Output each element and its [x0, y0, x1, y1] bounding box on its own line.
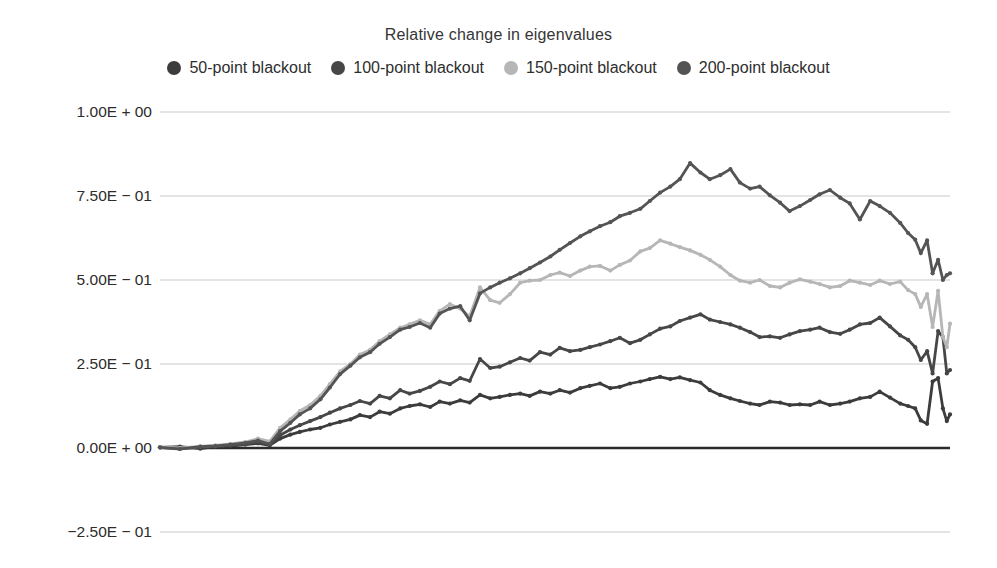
data-point-marker: [906, 338, 910, 342]
data-point-marker: [438, 400, 442, 404]
data-point-marker: [348, 403, 352, 407]
data-point-marker: [768, 400, 772, 404]
data-point-marker: [919, 251, 923, 255]
data-point-marker: [919, 358, 923, 362]
data-point-marker: [478, 285, 482, 289]
data-point-marker: [358, 413, 362, 417]
data-point-marker: [878, 390, 882, 394]
data-point-marker: [538, 350, 542, 354]
data-point-marker: [658, 375, 662, 379]
data-point-marker: [398, 406, 402, 410]
data-point-marker: [913, 292, 917, 296]
data-point-marker: [678, 375, 682, 379]
data-point-marker: [628, 341, 632, 345]
data-point-marker: [328, 385, 332, 389]
data-point-marker: [858, 322, 862, 326]
data-point-marker: [528, 359, 532, 363]
data-point-marker: [758, 278, 762, 282]
data-point-marker: [648, 199, 652, 203]
data-point-marker: [941, 335, 945, 339]
data-point-marker: [358, 355, 362, 359]
data-point-marker: [788, 209, 792, 213]
data-point-marker: [468, 379, 472, 383]
data-point-marker: [528, 266, 532, 270]
data-point-marker: [298, 430, 302, 434]
data-point-marker: [838, 196, 842, 200]
data-point-marker: [778, 201, 782, 205]
data-point-marker: [388, 335, 392, 339]
data-point-marker: [448, 307, 452, 311]
data-point-marker: [878, 316, 882, 320]
data-point-marker: [568, 349, 572, 353]
data-point-marker: [488, 285, 492, 289]
data-point-marker: [948, 322, 952, 326]
data-point-marker: [919, 305, 923, 309]
data-point-marker: [558, 248, 562, 252]
data-point-marker: [408, 404, 412, 408]
data-point-marker: [368, 402, 372, 406]
data-point-marker: [358, 399, 362, 403]
data-point-marker: [906, 231, 910, 235]
data-point-marker: [628, 211, 632, 215]
data-point-marker: [798, 204, 802, 208]
data-point-marker: [748, 402, 752, 406]
data-point-marker: [418, 402, 422, 406]
data-point-marker: [628, 258, 632, 262]
data-point-marker: [948, 412, 952, 416]
data-point-marker: [898, 280, 902, 284]
data-point-marker: [925, 349, 929, 353]
data-point-marker: [498, 281, 502, 285]
data-point-marker: [888, 396, 892, 400]
data-point-marker: [808, 403, 812, 407]
data-point-marker: [638, 379, 642, 383]
data-point-marker: [468, 318, 472, 322]
data-point-marker: [318, 426, 322, 430]
data-point-marker: [338, 420, 342, 424]
data-point-marker: [608, 220, 612, 224]
data-point-marker: [388, 396, 392, 400]
data-point-marker: [558, 346, 562, 350]
data-point-marker: [906, 288, 910, 292]
data-point-marker: [658, 191, 662, 195]
data-point-marker: [698, 170, 702, 174]
data-point-marker: [578, 386, 582, 390]
data-point-marker: [378, 342, 382, 346]
data-point-marker: [888, 324, 892, 328]
data-point-marker: [488, 396, 492, 400]
data-point-marker: [318, 415, 322, 419]
data-point-marker: [388, 412, 392, 416]
data-point-marker: [288, 421, 292, 425]
data-point-marker: [558, 388, 562, 392]
data-point-marker: [538, 390, 542, 394]
data-point-marker: [788, 281, 792, 285]
data-point-marker: [668, 324, 672, 328]
data-point-marker: [468, 401, 472, 405]
data-point-marker: [925, 422, 929, 426]
data-point-marker: [728, 396, 732, 400]
data-point-marker: [328, 411, 332, 415]
data-point-marker: [898, 402, 902, 406]
data-point-marker: [945, 419, 949, 423]
series-line: [160, 240, 950, 448]
data-point-marker: [428, 405, 432, 409]
data-point-marker: [838, 402, 842, 406]
data-point-marker: [936, 258, 940, 262]
series-150-point-blackout: [158, 238, 952, 450]
data-point-marker: [738, 399, 742, 403]
data-point-marker: [808, 328, 812, 332]
data-point-marker: [228, 443, 232, 447]
data-point-marker: [738, 279, 742, 283]
data-point-marker: [508, 393, 512, 397]
data-point-marker: [658, 327, 662, 331]
data-point-marker: [838, 284, 842, 288]
data-point-marker: [941, 406, 945, 410]
data-point-marker: [368, 415, 372, 419]
data-point-marker: [458, 398, 462, 402]
data-point-marker: [158, 445, 162, 449]
data-point-marker: [518, 392, 522, 396]
data-point-marker: [728, 322, 732, 326]
data-point-marker: [858, 281, 862, 285]
data-point-marker: [588, 384, 592, 388]
data-point-marker: [618, 385, 622, 389]
data-point-marker: [688, 161, 692, 165]
